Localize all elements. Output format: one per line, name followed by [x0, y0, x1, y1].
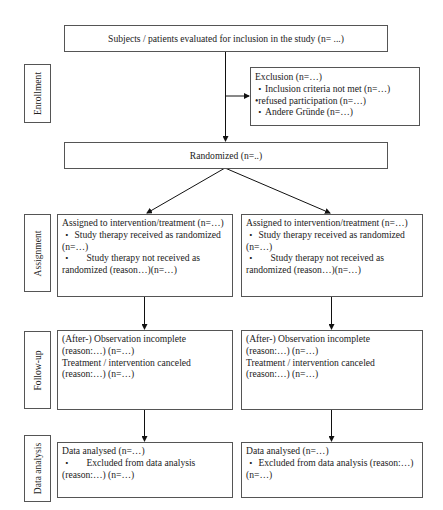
arm2-analysis-box: Data analysed (n=…) ・ Excluded from data…	[241, 442, 423, 498]
received-count: (n=…)	[246, 241, 418, 253]
received-count: (n=…)	[62, 241, 228, 253]
not-received-reason: randomized (reason…)(n=…)	[62, 264, 228, 276]
assignment-title: Assigned to intervention/treatment (n=…)	[62, 217, 228, 229]
analysis-line: Data analysed (n=…)	[62, 445, 228, 457]
not-received-line: ・ Study therapy not received as	[246, 252, 418, 264]
phase-label-data-analysis: Data analysis	[24, 435, 51, 502]
received-line: ・ Study therapy received as randomized	[62, 229, 228, 241]
exclusion-title: Exclusion (n=…)	[255, 71, 415, 83]
phase-label-enrollment: Enrollment	[24, 64, 51, 123]
exclusion-item: ・Inclusion criteria not met (n=…)	[255, 83, 415, 95]
analysis-line: ・ Excluded from data analysis	[62, 457, 228, 469]
exclusion-box: Exclusion (n=…) ・Inclusion criteria not …	[250, 67, 420, 126]
followup-line: (reason:…) (n=…)	[62, 345, 228, 357]
analysis-line: (reason:…) (n=…)	[62, 469, 228, 481]
arm2-assignment-box: Assigned to intervention/treatment (n=…)…	[241, 214, 423, 297]
arm1-assignment-box: Assigned to intervention/treatment (n=…)…	[57, 214, 233, 297]
analysis-line: (n=…)	[246, 469, 418, 481]
randomized-box: Randomized (n=..)	[64, 142, 388, 169]
not-received-line: ・ Study therapy not received as	[62, 252, 228, 264]
followup-line: (After-) Observation incomplete	[62, 333, 228, 345]
followup-line: (reason:…) (n=…)	[62, 368, 228, 380]
not-received-reason: randomized (reason…)(n=…)	[246, 264, 418, 276]
received-line: ・ Study therapy received as randomized	[246, 229, 418, 241]
randomized-text: Randomized (n=..)	[190, 150, 262, 162]
exclusion-item: •refused participation (n=…)	[255, 95, 415, 107]
screening-text: Subjects / patients evaluated for inclus…	[108, 33, 344, 45]
arm2-followup-box: (After-) Observation incomplete (reason:…	[241, 330, 423, 410]
followup-line: (reason:…) (n=…)	[246, 345, 418, 357]
analysis-line: ・ Excluded from data analysis (reason:…)	[246, 457, 418, 469]
exclusion-item: ・Andere Gründe (n=…)	[255, 106, 415, 118]
followup-line: (reason:…) (n=…)	[246, 368, 418, 380]
assignment-title: Assigned to intervention/treatment (n=…)	[246, 217, 418, 229]
phase-label-assignment: Assignment	[24, 214, 51, 292]
arm1-analysis-box: Data analysed (n=…) ・ Excluded from data…	[57, 442, 233, 498]
screening-box: Subjects / patients evaluated for inclus…	[64, 25, 388, 52]
followup-line: Treatment / intervention canceled	[246, 357, 418, 369]
analysis-line: Data analysed (n=…)	[246, 445, 418, 457]
arm1-followup-box: (After-) Observation incomplete (reason:…	[57, 330, 233, 410]
followup-line: (After-) Observation incomplete	[246, 333, 418, 345]
phase-label-followup: Follow-up	[24, 331, 51, 409]
followup-line: Treatment / intervention canceled	[62, 357, 228, 369]
